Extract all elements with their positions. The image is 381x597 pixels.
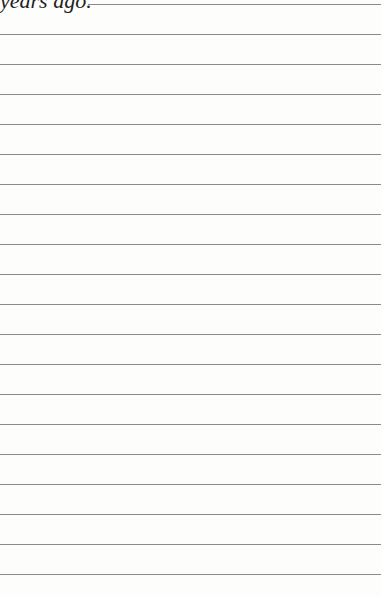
writing-line	[0, 304, 381, 305]
writing-line	[0, 244, 381, 245]
writing-line	[88, 4, 381, 5]
writing-line	[0, 544, 381, 545]
prompt-text-fragment: years ago.	[0, 0, 92, 12]
writing-line	[0, 574, 381, 575]
writing-line	[0, 424, 381, 425]
writing-line	[0, 94, 381, 95]
writing-line	[0, 214, 381, 215]
writing-line	[0, 34, 381, 35]
writing-line	[0, 514, 381, 515]
writing-line	[0, 184, 381, 185]
lined-writing-page: years ago.	[0, 0, 381, 597]
writing-line	[0, 64, 381, 65]
writing-line	[0, 334, 381, 335]
writing-line	[0, 274, 381, 275]
writing-line	[0, 364, 381, 365]
writing-line	[0, 484, 381, 485]
writing-line	[0, 394, 381, 395]
writing-line	[0, 154, 381, 155]
writing-line	[0, 124, 381, 125]
writing-line	[0, 454, 381, 455]
